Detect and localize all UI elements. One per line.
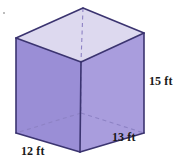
edge-vertical-front	[80, 62, 81, 152]
dimension-label-depth: 13 ft	[112, 131, 136, 143]
scan-artifact-mark	[3, 12, 5, 14]
dimension-label-height: 15 ft	[149, 75, 173, 87]
dimension-label-width: 12 ft	[21, 145, 45, 157]
geometry-figure: 15 ft 13 ft 12 ft	[0, 0, 178, 168]
